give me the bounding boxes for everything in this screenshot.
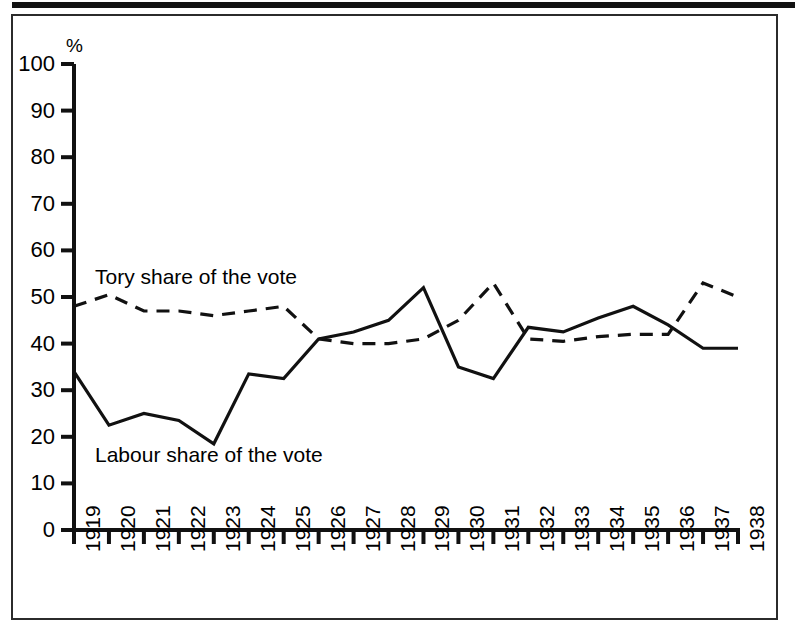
figure-page: % 0102030405060708090100 191919201921192… (0, 0, 807, 633)
y-tick-label: 50 (9, 286, 55, 308)
series-line-tory (74, 283, 738, 344)
y-tick-label: 90 (9, 100, 55, 122)
series-line-labour (74, 288, 738, 444)
chart-axes (61, 64, 740, 544)
x-tick-label: 1925 (292, 505, 313, 552)
y-tick-label: 0 (9, 519, 55, 541)
x-tick-label: 1936 (676, 505, 697, 552)
y-tick-label: 60 (9, 239, 55, 261)
x-tick-label: 1938 (746, 505, 767, 552)
series-label-labour: Labour share of the vote (95, 444, 323, 465)
x-tick-label: 1931 (501, 505, 522, 552)
series-label-tory: Tory share of the vote (95, 266, 297, 287)
x-tick-label: 1923 (222, 505, 243, 552)
y-tick-label: 70 (9, 193, 55, 215)
x-tick-label: 1922 (187, 505, 208, 552)
y-tick-label: 40 (9, 333, 55, 355)
y-tick-label: 100 (9, 53, 55, 75)
page-top-rule (12, 2, 795, 8)
y-tick-label: 80 (9, 146, 55, 168)
x-tick-label: 1924 (257, 505, 278, 552)
chart-plot-area: % 0102030405060708090100 191919201921192… (11, 14, 778, 620)
x-tick-label: 1929 (431, 505, 452, 552)
x-tick-label: 1933 (571, 505, 592, 552)
x-tick-label: 1920 (117, 505, 138, 552)
x-tick-label: 1919 (82, 505, 103, 552)
x-tick-label: 1926 (327, 505, 348, 552)
x-tick-label: 1932 (536, 505, 557, 552)
y-tick-label: 30 (9, 379, 55, 401)
x-tick-label: 1921 (152, 505, 173, 552)
y-tick-label: 20 (9, 426, 55, 448)
x-tick-label: 1928 (397, 505, 418, 552)
x-tick-label: 1934 (606, 505, 627, 552)
x-tick-label: 1930 (466, 505, 487, 552)
y-tick-label: 10 (9, 472, 55, 494)
x-tick-label: 1935 (641, 505, 662, 552)
chart-series (74, 283, 738, 444)
x-tick-label: 1927 (362, 505, 383, 552)
x-tick-label: 1937 (711, 505, 732, 552)
